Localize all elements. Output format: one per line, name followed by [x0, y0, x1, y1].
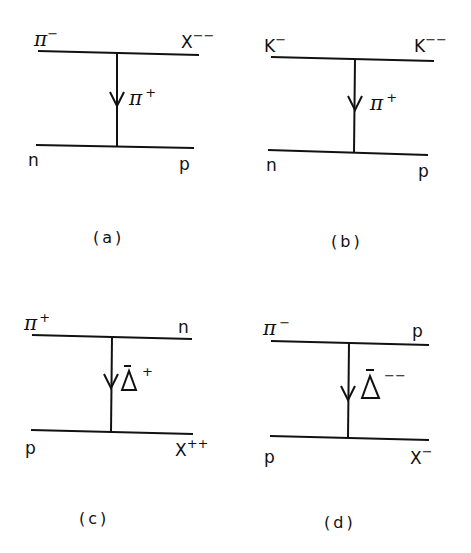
label-exchange: π+ [369, 90, 397, 115]
label-exchange: + [122, 364, 153, 390]
bottom-particle-line [36, 145, 194, 148]
label-bottom-left: n [266, 155, 277, 175]
label-top-right: K−− [414, 32, 447, 56]
label-top-left: K− [264, 32, 286, 56]
panel-caption: (d) [324, 513, 356, 532]
delta-glyph [362, 376, 379, 398]
label-top-right: p [412, 321, 423, 341]
label-bottom-right: p [418, 161, 429, 181]
label-exchange: −− [362, 368, 406, 398]
label-top-right: n [178, 317, 189, 337]
panel-caption: (c) [79, 509, 109, 528]
label-bottom-right: p [179, 154, 190, 174]
label-bottom-left: n [28, 150, 39, 170]
label-exchange: π+ [128, 85, 156, 110]
exchange-propagator [348, 343, 349, 438]
exchange-propagator [354, 59, 355, 153]
label-top-left: π+ [23, 310, 50, 335]
top-particle-line [38, 51, 199, 55]
top-particle-line [271, 341, 429, 345]
bottom-particle-line [270, 436, 429, 440]
label-bottom-left: p [25, 438, 36, 458]
panel-d: π− p −− p X− (d) [262, 315, 433, 532]
panel-c: π+ n + p X++ (c) [23, 310, 208, 528]
label-bottom-left: p [264, 447, 275, 467]
panel-b: K− K−− π+ n p (b) [264, 32, 447, 251]
svg-text:+: + [142, 364, 153, 379]
label-bottom-right: X++ [175, 436, 208, 460]
label-top-left: π− [33, 26, 58, 51]
top-particle-line [271, 57, 434, 61]
delta-glyph [122, 371, 136, 390]
label-top-right: X−− [181, 28, 214, 52]
label-bottom-right: X− [410, 444, 433, 468]
svg-text:−−: −− [384, 368, 406, 383]
panel-caption: (b) [331, 232, 363, 251]
panel-a: π− X−− π+ n p (a) [28, 26, 214, 247]
bottom-particle-line [268, 150, 428, 155]
panel-caption: (a) [93, 228, 124, 247]
feynman-diagrams-figure: π− X−− π+ n p (a) K− K−− π+ n p (b) π+ n… [0, 0, 471, 553]
label-top-left: π− [262, 315, 290, 340]
